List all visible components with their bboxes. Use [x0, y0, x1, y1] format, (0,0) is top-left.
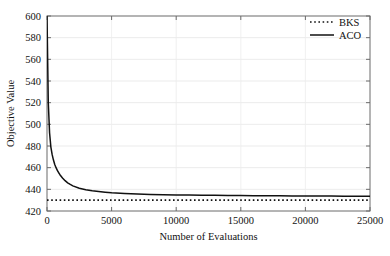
x-axis-title: Number of Evaluations: [160, 231, 258, 242]
x-tick-label: 5000: [101, 215, 122, 226]
y-axis-title: Objective Value: [5, 80, 16, 147]
y-tick-label: 600: [25, 11, 41, 22]
y-tick-label: 580: [25, 32, 41, 43]
y-tick-label: 560: [25, 54, 41, 65]
y-tick-label: 480: [25, 141, 41, 152]
y-tick-label: 540: [25, 76, 41, 87]
y-tick-label: 420: [25, 206, 41, 217]
x-tick-label: 10000: [163, 215, 189, 226]
x-tick-label: 0: [44, 215, 49, 226]
y-tick-label: 460: [25, 162, 41, 173]
y-tick-label: 500: [25, 119, 41, 130]
x-axis-tick-labels: 0500010000150002000025000: [44, 215, 383, 226]
legend-label-bks: BKS: [339, 17, 360, 28]
x-tick-label: 15000: [228, 215, 254, 226]
legend-label-aco: ACO: [339, 30, 362, 41]
chart-figure: 0500010000150002000025000 42044046048050…: [0, 0, 390, 256]
y-tick-label: 520: [25, 97, 41, 108]
x-tick-label: 20000: [292, 215, 318, 226]
convergence-line-chart: 0500010000150002000025000 42044046048050…: [0, 0, 390, 256]
plot-area-background: [47, 16, 370, 211]
y-axis-tick-labels: 420440460480500520540560580600: [25, 11, 41, 217]
x-tick-label: 25000: [357, 215, 383, 226]
y-tick-label: 440: [25, 184, 41, 195]
